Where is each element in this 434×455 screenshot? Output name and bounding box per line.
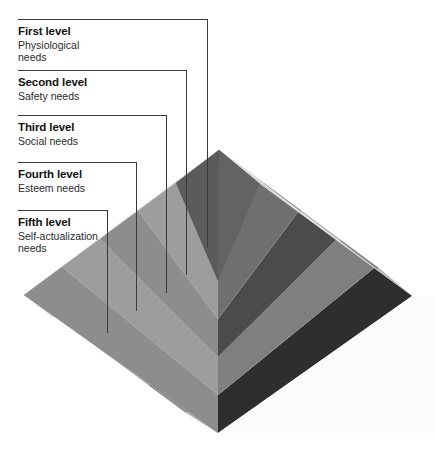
level-label-fourth[interactable]: Second level Safety needs — [18, 71, 126, 102]
level-label-fifth[interactable]: First level Physiological needs — [18, 20, 126, 63]
level-desc-second: Esteem needs — [18, 181, 126, 194]
level-desc-fourth: Safety needs — [18, 89, 126, 102]
level-title-first: Fifth level — [18, 211, 126, 229]
level-label-first[interactable]: Fifth level Self-actualization needs — [18, 211, 126, 254]
figure-canvas: First level Physiological needs Second l… — [0, 0, 434, 455]
level-title-fifth: First level — [18, 20, 126, 38]
level-desc-first: Self-actualization needs — [18, 229, 126, 254]
level-title-third: Third level — [18, 116, 126, 134]
level-label-second[interactable]: Fourth level Esteem needs — [18, 163, 126, 194]
level-desc-first-line1: Self-actualization — [18, 230, 98, 242]
level-label-third[interactable]: Third level Social needs — [18, 116, 126, 147]
level-desc-fifth-line1: Physiological — [18, 39, 79, 51]
level-desc-third: Social needs — [18, 134, 126, 147]
level-title-fourth: Second level — [18, 71, 126, 89]
level-desc-fifth-line2: needs — [18, 51, 47, 63]
level-desc-fifth: Physiological needs — [18, 38, 126, 63]
level-title-second: Fourth level — [18, 163, 126, 181]
level-desc-first-line2: needs — [18, 242, 47, 254]
